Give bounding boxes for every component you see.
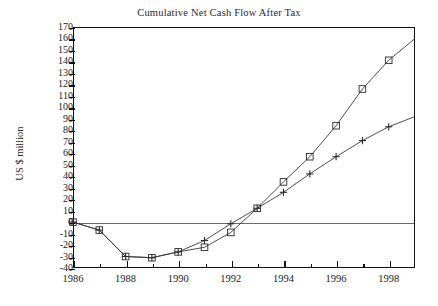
data-point-plus	[385, 123, 392, 130]
series-line-plus	[73, 117, 415, 258]
data-point-plus	[201, 237, 208, 244]
data-point-plus	[175, 248, 182, 255]
cash-flow-chart: Cumulative Net Cash Flow After Tax US $ …	[0, 0, 438, 306]
series-layer	[0, 0, 438, 306]
data-point-plus	[227, 220, 234, 227]
data-point-plus	[333, 153, 340, 160]
data-point-plus	[69, 219, 76, 226]
data-point-plus	[148, 254, 155, 261]
data-point-plus	[306, 170, 313, 177]
series-line-square	[73, 39, 415, 258]
data-point-plus	[359, 137, 366, 144]
data-point-plus	[280, 189, 287, 196]
